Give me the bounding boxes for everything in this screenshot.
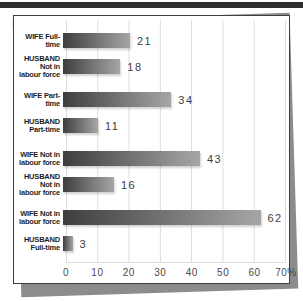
value-label: 18	[127, 61, 142, 73]
x-axis-tick-label: 0	[63, 267, 69, 278]
bar-row: HUSBAND Part-time11	[14, 118, 286, 133]
value-label: 43	[207, 153, 222, 165]
value-label: 3	[80, 238, 88, 250]
bar	[63, 151, 200, 166]
value-label: 11	[105, 120, 119, 132]
page-top-rule	[0, 2, 303, 8]
category-label: HUSBAND Not in labour force	[14, 55, 63, 79]
scanned-chart-page: WIFE Full-time21HUSBAND Not in labour fo…	[0, 0, 303, 301]
bar-track: 11	[63, 118, 286, 133]
chart-panel: WIFE Full-time21HUSBAND Not in labour fo…	[13, 15, 290, 284]
bar	[63, 177, 114, 192]
category-label: WIFE Part-time	[14, 92, 63, 108]
bar-rows: WIFE Full-time21HUSBAND Not in labour fo…	[14, 33, 286, 251]
category-label: WIFE Full-time	[14, 33, 63, 49]
bar-row: HUSBAND Not in labour force18	[14, 59, 286, 74]
category-label: HUSBAND Not in labour force	[14, 173, 63, 197]
x-axis-tick-label: 20	[123, 267, 135, 278]
category-label: WIFE Not in labour force	[14, 151, 63, 167]
bar	[63, 59, 120, 74]
x-axis-tick-label: 70%	[275, 267, 297, 278]
bar	[63, 33, 130, 48]
bar-track: 34	[63, 92, 286, 107]
value-label: 21	[137, 35, 152, 47]
x-axis-tick-label: 30	[154, 267, 166, 278]
bar-track: 3	[63, 236, 286, 251]
bar-track: 43	[63, 151, 286, 166]
bar-track: 62	[63, 210, 286, 225]
category-label: WIFE Not in labour force	[14, 210, 63, 226]
bar-row: WIFE Part-time34	[14, 92, 286, 107]
x-axis-tick-label: 40	[186, 267, 198, 278]
bar-track: 21	[63, 33, 286, 48]
bar-row: WIFE Full-time21	[14, 33, 286, 48]
value-label: 34	[178, 94, 193, 106]
bar-row: WIFE Not in labour force62	[14, 210, 286, 225]
bar-track: 16	[63, 177, 286, 192]
x-axis-tick-label: 60	[249, 267, 261, 278]
bar	[63, 236, 73, 251]
value-label: 16	[121, 179, 136, 191]
x-axis-tick-label: 10	[91, 267, 103, 278]
bar-row: HUSBAND Not in labour force16	[14, 177, 286, 192]
bar	[63, 118, 98, 133]
bar-row: WIFE Not in labour force43	[14, 151, 286, 166]
bar	[63, 92, 171, 107]
x-axis-tick-label: 50	[217, 267, 229, 278]
category-label: HUSBAND Part-time	[14, 118, 63, 134]
bar-track: 18	[63, 59, 286, 74]
bar	[63, 210, 261, 225]
category-label: HUSBAND Full-time	[14, 236, 63, 252]
bar-row: HUSBAND Full-time3	[14, 236, 286, 251]
x-axis: 010203040506070%	[66, 267, 286, 279]
value-label: 62	[268, 212, 283, 224]
